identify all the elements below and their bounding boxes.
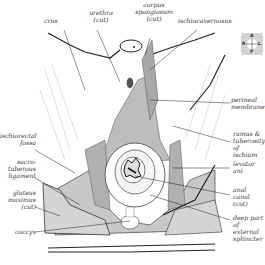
perineum-diagram: crus urethra (cut) corpus spongiosum (cu… [0,0,265,265]
label-perineal-membrane: perineal membrane [231,96,265,110]
compass-left: L [258,41,261,46]
label-corpus-spongiosum: corpus spongiosum (cut) [134,1,174,22]
label-crus: crus [44,17,58,24]
anatomy-illustration [0,0,265,265]
label-sacrotuberous-ligament: sacro- tuberous ligament [0,158,36,179]
label-urethra: urethra (cut) [86,9,116,23]
orientation-compass: A P R L [241,33,263,55]
label-levator-ani: levator ani [233,160,255,174]
label-ischiorectal-fossa: ischiorectal fossa [0,132,36,146]
label-anal-canal: anal canal (cut) [233,186,250,207]
compass-anterior: A [250,33,253,38]
label-ischiocavernosus: ischiocavernosus [178,17,232,24]
label-external-sphincter: deep part of external sphincter [233,214,265,242]
label-ramus-tuberosity-ischium: ramus & tuberosity of ischium [233,130,265,158]
label-coccyx: coccyx [0,228,36,235]
label-gluteus-maximus: gluteus maximus (cut) [0,189,36,210]
compass-right: R [242,41,245,46]
compass-posterior: P [250,49,253,54]
